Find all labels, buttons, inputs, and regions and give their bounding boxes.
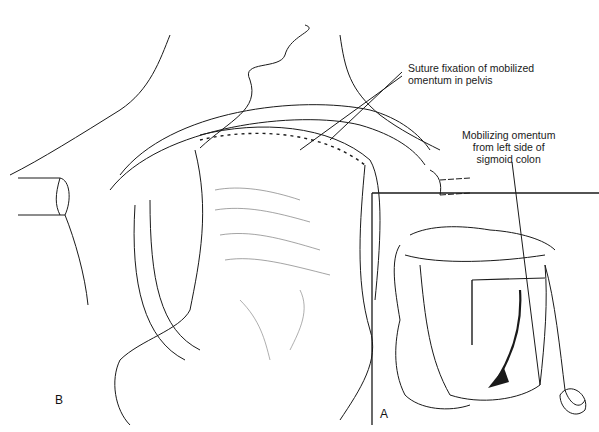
panel-label-a: A bbox=[380, 407, 388, 421]
mobilizing-omentum-label: Mobilizing omentum from left side of sig… bbox=[462, 129, 555, 165]
panel-label-b: B bbox=[55, 393, 63, 407]
suture-fixation-label: Suture fixation of mobilized omentum in … bbox=[408, 62, 534, 86]
figure-canvas: Suture fixation of mobilized omentum in … bbox=[0, 0, 599, 432]
mobilizing-label-line1: Mobilizing omentum bbox=[462, 129, 555, 141]
mobilizing-label-line3: sigmoid colon bbox=[462, 153, 555, 165]
mobilizing-label-line2: from left side of bbox=[462, 141, 555, 153]
suture-fixation-label-line1: Suture fixation of mobilized bbox=[408, 62, 534, 74]
suture-fixation-label-line2: omentum in pelvis bbox=[408, 74, 534, 86]
